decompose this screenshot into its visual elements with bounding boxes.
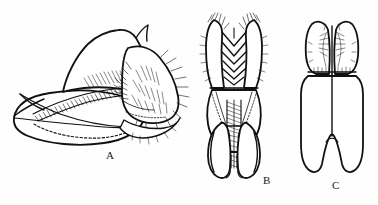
figure-b-label: B <box>263 175 271 186</box>
figure-a-setose-lateral-lobe <box>122 46 179 123</box>
figure-b-apical-lobe-left <box>206 20 224 88</box>
illustration-plate: A <box>0 0 378 205</box>
figure-a-label: A <box>106 150 114 161</box>
figure-a-dorsal-spur <box>136 25 148 41</box>
figure-c-label: C <box>332 180 340 191</box>
figure-a <box>0 0 190 160</box>
figure-b-chevron-bands <box>222 32 246 85</box>
figure-b <box>196 8 278 183</box>
figure-b-apical-lobe-right <box>244 20 262 88</box>
figure-c <box>296 10 368 180</box>
